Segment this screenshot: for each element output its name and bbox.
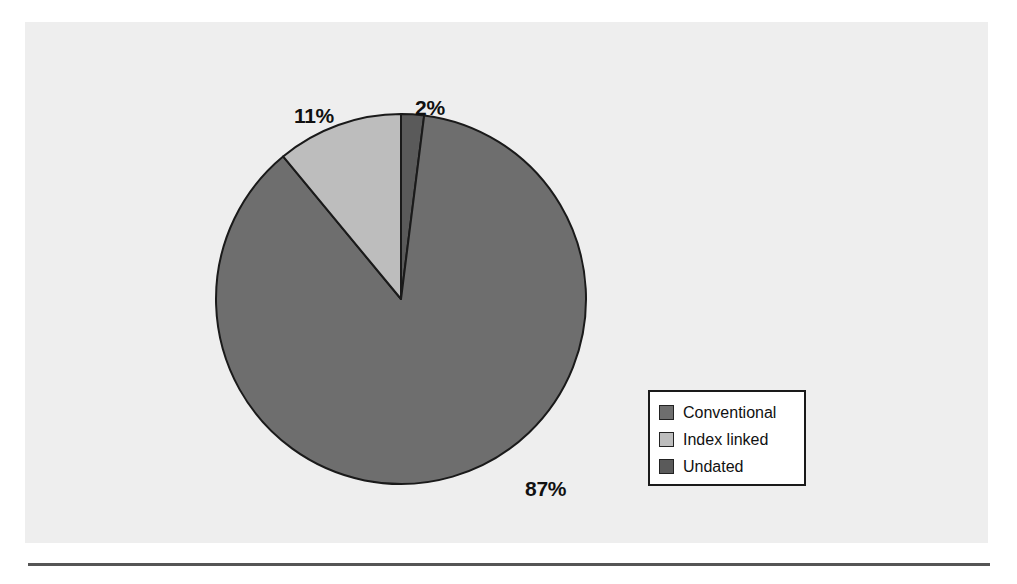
legend-swatch-conventional bbox=[659, 405, 674, 420]
legend-item-undated[interactable]: Undated bbox=[659, 453, 804, 480]
pie-label-undated: 2% bbox=[415, 96, 445, 120]
chart-canvas: 11% 2% 87% Conventional Index linked Und… bbox=[0, 0, 1017, 584]
pie-chart bbox=[25, 22, 988, 543]
legend-label-conventional: Conventional bbox=[683, 405, 776, 421]
legend-item-index-linked[interactable]: Index linked bbox=[659, 426, 804, 453]
pie-chart-svg bbox=[25, 22, 988, 543]
pie-slice-group bbox=[216, 114, 586, 484]
legend-label-undated: Undated bbox=[683, 459, 744, 475]
legend-swatch-index-linked bbox=[659, 432, 674, 447]
footer-divider bbox=[28, 563, 990, 566]
chart-legend: Conventional Index linked Undated bbox=[648, 390, 806, 486]
pie-label-conventional: 87% bbox=[525, 477, 566, 501]
legend-label-index-linked: Index linked bbox=[683, 432, 768, 448]
legend-item-conventional[interactable]: Conventional bbox=[659, 399, 804, 426]
chart-panel: 11% 2% 87% Conventional Index linked Und… bbox=[25, 22, 988, 543]
legend-swatch-undated bbox=[659, 459, 674, 474]
pie-label-index-linked: 11% bbox=[294, 104, 334, 128]
